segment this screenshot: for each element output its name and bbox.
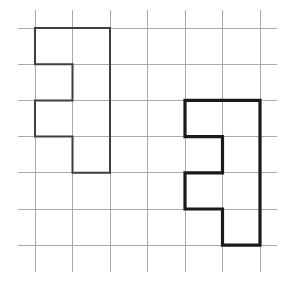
figure-canvas: ) <box>0 0 286 286</box>
grid-polygon-diagram <box>0 0 286 286</box>
canvas-background <box>0 0 286 286</box>
